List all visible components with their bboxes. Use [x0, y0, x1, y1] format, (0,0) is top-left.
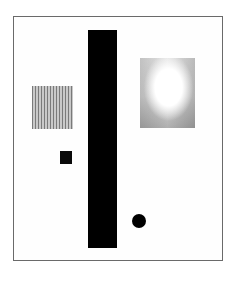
- vertical-black-bar: [88, 30, 117, 248]
- small-black-square: [60, 151, 72, 164]
- black-dot: [132, 214, 146, 228]
- textured-gray-square: [140, 58, 195, 128]
- striped-square: [32, 86, 73, 129]
- artwork-frame: [13, 16, 223, 261]
